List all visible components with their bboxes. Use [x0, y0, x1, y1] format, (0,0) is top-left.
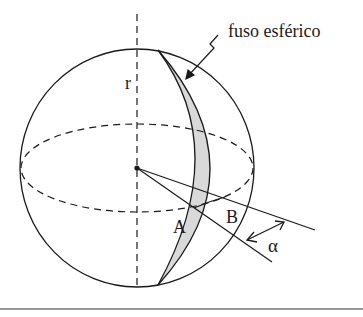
point-b-label: B [226, 207, 238, 227]
radius-label: r [125, 73, 131, 93]
spherical-lune-diagram: fuso esférico r A B α [0, 0, 363, 317]
angle-label: α [268, 235, 278, 256]
pointer-arrow-icon [186, 35, 218, 79]
point-a-label: A [173, 217, 186, 237]
angle-arrow-icon [247, 221, 284, 242]
lune-label: fuso esférico [228, 21, 320, 41]
